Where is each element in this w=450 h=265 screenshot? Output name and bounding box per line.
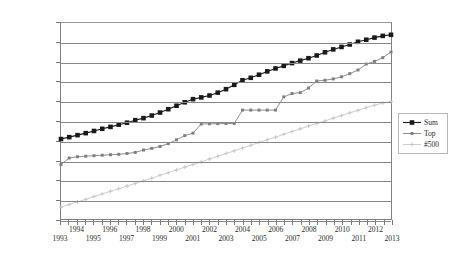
data-point-marker [389,33,394,38]
data-point-marker [166,107,171,112]
data-point-marker [183,134,186,137]
legend-swatch-icon [402,129,422,138]
x-axis-tick-label: 2006 [262,226,290,234]
data-point-marker [109,153,112,156]
gridline [61,181,391,182]
data-point-marker [166,171,170,175]
data-point-marker [149,113,154,118]
data-point-marker [331,116,335,120]
legend-label: #500 [422,140,439,149]
x-axis-tick-label: 1996 [96,226,124,234]
gridline [61,221,391,222]
data-point-marker [175,168,179,172]
data-point-marker [159,145,162,148]
data-point-marker [356,108,360,112]
legend-swatch-icon [402,140,422,149]
data-point-marker [93,154,96,157]
data-point-marker [68,156,71,159]
data-point-marker [191,97,196,102]
series-line [61,52,391,165]
gridline [61,122,391,123]
x-axis-tick-label: 2002 [195,226,223,234]
data-point-marker [299,91,302,94]
data-point-marker [100,127,105,132]
data-point-marker [241,146,245,150]
data-point-marker [216,154,220,158]
legend-label: Top [422,129,436,138]
chart-legend: SumTop#500 [398,113,448,154]
legend-item-sum[interactable]: Sum [402,117,445,128]
data-point-marker [331,47,336,52]
gridline [61,162,391,163]
data-point-marker [134,151,137,154]
data-point-marker [390,51,393,54]
x-axis-tick-label: 2004 [229,226,257,234]
data-point-marker [126,152,129,155]
data-point-marker [348,111,352,115]
data-point-marker [92,129,97,134]
data-point-marker [60,163,63,166]
x-axis-tick-label: 2001 [179,235,207,243]
data-point-marker [158,110,163,115]
data-point-marker [249,143,253,147]
data-point-marker [59,205,63,209]
data-point-marker [76,155,79,158]
data-point-marker [364,106,368,110]
data-point-marker [340,75,343,78]
legend-item-top[interactable]: Top [402,128,445,139]
data-point-marker [109,189,113,193]
data-point-marker [324,79,327,82]
x-axis-tick-label: 1995 [79,235,107,243]
data-point-marker [158,173,162,177]
data-point-marker [357,69,360,72]
data-point-marker [83,131,88,136]
data-point-marker [339,45,344,50]
x-axis-tick-label: 2013 [378,235,406,243]
data-point-marker [265,69,270,74]
data-point-marker [142,149,145,152]
data-point-marker [372,35,377,40]
x-axis-tick-mark [392,220,393,225]
data-point-marker [257,72,262,77]
data-point-marker [207,93,212,98]
data-point-marker [192,132,195,135]
x-axis-tick-label: 1994 [63,226,91,234]
gridline [61,43,391,44]
data-point-marker [75,133,80,138]
data-point-marker [183,165,187,169]
data-point-marker [323,50,328,55]
data-point-marker [307,124,311,128]
data-point-marker [248,76,253,81]
data-point-marker [141,116,146,121]
series-top [60,51,393,166]
data-point-marker [266,109,269,112]
data-point-marker [101,154,104,157]
gridline [61,142,391,143]
data-point-marker [258,109,261,112]
data-point-marker [100,192,104,196]
data-point-marker [117,187,121,191]
data-point-marker [84,155,87,158]
data-point-marker [241,109,244,112]
data-point-marker [410,143,414,147]
data-point-marker [92,195,96,199]
data-point-marker [373,103,377,107]
series-layer [61,23,391,219]
x-axis-tick-label: 2009 [312,235,340,243]
x-axis-tick-label: 2008 [295,226,323,234]
data-point-marker [381,56,384,59]
gridline [61,102,391,103]
x-axis-tick-label: 1993 [46,235,74,243]
data-point-marker [249,109,252,112]
data-point-marker [224,152,228,156]
data-point-marker [199,95,204,100]
data-point-marker [291,92,294,95]
legend-item--500[interactable]: #500 [402,139,445,150]
data-point-marker [117,153,120,156]
data-point-marker [224,87,229,92]
gridline [61,82,391,83]
data-point-marker [411,132,414,135]
x-axis-tick-label: 2000 [162,226,190,234]
legend-label: Sum [422,118,438,127]
data-point-marker [125,184,129,188]
